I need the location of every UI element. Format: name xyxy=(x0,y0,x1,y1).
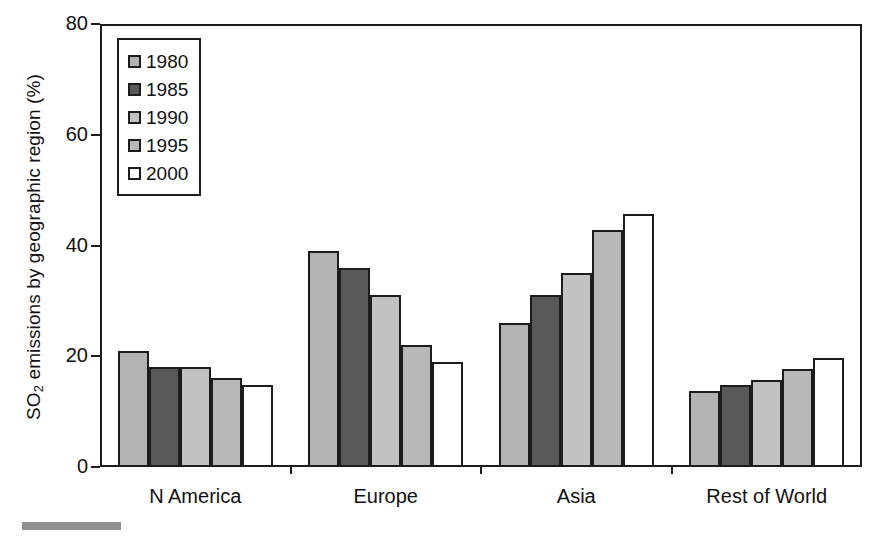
legend-swatch-icon xyxy=(128,167,141,180)
legend-swatch-icon xyxy=(128,55,141,68)
legend: 19801985199019952000 xyxy=(117,38,201,196)
y-axis-title-post: emissions by geographic region (%) xyxy=(23,74,44,385)
bar[interactable] xyxy=(211,378,242,467)
legend-swatch-icon xyxy=(128,139,141,152)
x-axis-category-label: Asia xyxy=(481,485,672,507)
legend-item-2000[interactable]: 2000 xyxy=(128,159,188,187)
y-axis-title-pre: SO xyxy=(23,392,44,420)
bar[interactable] xyxy=(561,273,592,467)
legend-item-1995[interactable]: 1995 xyxy=(128,131,188,159)
legend-swatch-icon xyxy=(128,83,141,96)
y-axis-tick-label: 80 xyxy=(44,13,88,33)
bar[interactable] xyxy=(689,391,720,467)
bar[interactable] xyxy=(242,385,273,468)
bar-group xyxy=(689,24,844,467)
bar[interactable] xyxy=(118,351,149,467)
y-axis-tick-label: 20 xyxy=(44,345,88,365)
legend-item-label: 1995 xyxy=(146,136,188,155)
bar[interactable] xyxy=(623,214,654,467)
bars-layer xyxy=(100,24,862,467)
bar[interactable] xyxy=(782,369,813,467)
y-axis-title: SO2 emissions by geographic region (%) xyxy=(23,17,45,477)
bar[interactable] xyxy=(813,358,844,467)
y-axis-tick-mark xyxy=(91,245,100,247)
x-axis-category-label: Rest of World xyxy=(672,485,863,507)
legend-swatch-icon xyxy=(128,111,141,124)
chart-container: SO2 emissions by geographic region (%) 0… xyxy=(0,0,893,540)
legend-item-label: 1990 xyxy=(146,108,188,127)
bar[interactable] xyxy=(308,251,339,467)
bar-group xyxy=(499,24,654,467)
y-axis-tick-label: 60 xyxy=(44,124,88,144)
bar[interactable] xyxy=(370,295,401,467)
bar[interactable] xyxy=(751,380,782,467)
legend-item-1980[interactable]: 1980 xyxy=(128,47,188,75)
bar[interactable] xyxy=(339,268,370,467)
legend-item-label: 1985 xyxy=(146,80,188,99)
y-axis-tick-label: 0 xyxy=(44,456,88,476)
bar[interactable] xyxy=(720,385,751,467)
legend-item-1990[interactable]: 1990 xyxy=(128,103,188,131)
y-axis-tick-label: 40 xyxy=(44,235,88,255)
y-axis-tick-mark xyxy=(91,23,100,25)
scan-artifact xyxy=(22,522,121,530)
bar[interactable] xyxy=(499,323,530,467)
bar[interactable] xyxy=(432,362,463,467)
bar[interactable] xyxy=(592,230,623,467)
y-axis-tick-mark xyxy=(91,466,100,468)
y-axis-tick-mark xyxy=(91,355,100,357)
bar[interactable] xyxy=(149,367,180,467)
y-axis-title-subscript: 2 xyxy=(31,385,46,392)
legend-item-label: 1980 xyxy=(146,52,188,71)
legend-item-1985[interactable]: 1985 xyxy=(128,75,188,103)
x-axis-category-label: N America xyxy=(100,485,291,507)
bar[interactable] xyxy=(180,367,211,467)
x-axis-category-label: Europe xyxy=(291,485,482,507)
bar[interactable] xyxy=(530,295,561,467)
legend-item-label: 2000 xyxy=(146,164,188,183)
bar[interactable] xyxy=(401,345,432,467)
bar-group xyxy=(308,24,463,467)
y-axis-tick-mark xyxy=(91,134,100,136)
